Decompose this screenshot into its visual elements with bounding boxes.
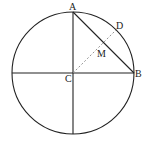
radius-CD-dashed <box>73 30 116 73</box>
point-label-B: B <box>135 68 142 79</box>
point-label-A: A <box>69 1 77 12</box>
point-label-M: M <box>97 48 106 59</box>
geometry-diagram: A B C D M <box>0 0 150 144</box>
point-label-C: C <box>65 73 72 84</box>
point-label-D: D <box>116 20 123 31</box>
